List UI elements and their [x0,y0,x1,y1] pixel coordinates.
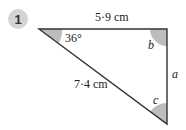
angle-c-label: c [153,93,159,107]
side-top-label: 5·9 cm [95,10,129,24]
angle-top-left-label: 36° [65,31,82,45]
triangle-diagram: 1 5·9 cm 36° b a 7·4 cm c [0,0,186,130]
question-number: 1 [14,12,21,27]
side-hypotenuse-label: 7·4 cm [74,77,108,91]
angle-b-label: b [148,38,154,52]
side-a-label: a [172,67,178,81]
